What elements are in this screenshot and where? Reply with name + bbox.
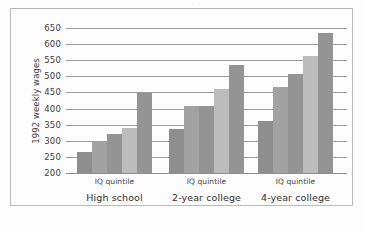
x-axis-label: IQ quintile <box>245 177 346 186</box>
y-tick-label: 650 <box>44 23 61 33</box>
x-axis-label: IQ quintile <box>64 177 165 186</box>
y-gridline <box>66 44 347 45</box>
bar <box>107 134 122 173</box>
bar <box>184 106 199 173</box>
bar <box>303 56 318 173</box>
bar-chart-figure: · · · · · · · · · · · · 1992 weekly wage… <box>0 0 365 230</box>
y-tick-label: 550 <box>44 55 61 65</box>
y-axis-title: 1992 weekly wages <box>30 28 42 173</box>
group-label: 2-year college <box>156 192 257 203</box>
bar <box>258 121 273 173</box>
group-caption: IQ quintile2-year college <box>156 177 257 203</box>
bar <box>273 87 288 173</box>
group-caption: IQ quintile4-year college <box>245 177 346 203</box>
x-axis-label: IQ quintile <box>156 177 257 186</box>
bar <box>122 128 137 173</box>
y-axis-title-label: 1992 weekly wages <box>31 58 41 144</box>
bar <box>199 106 214 173</box>
bar <box>214 89 229 173</box>
y-gridline <box>66 28 347 29</box>
y-tick-label: 350 <box>44 120 61 130</box>
group-label: 4-year college <box>245 192 346 203</box>
top-edge-bleed-text: · · · · · · · · · · · · <box>0 0 365 6</box>
y-tick-label: 200 <box>44 168 61 178</box>
bar <box>77 152 92 173</box>
bar <box>318 33 333 173</box>
chart-frame: 1992 weekly wages 6506005505004504003503… <box>10 8 353 206</box>
bar <box>169 129 184 173</box>
bar <box>92 142 107 173</box>
bar <box>229 65 244 173</box>
y-gridline <box>66 173 347 174</box>
bar <box>137 93 152 173</box>
y-tick-label: 450 <box>44 87 61 97</box>
y-tick-label: 600 <box>44 39 61 49</box>
group-label: High school <box>64 192 165 203</box>
bar <box>288 74 303 173</box>
y-tick-label: 400 <box>44 104 61 114</box>
group-caption: IQ quintileHigh school <box>64 177 165 203</box>
y-tick-label: 500 <box>44 71 61 81</box>
y-tick-label: 300 <box>44 136 61 146</box>
y-tick-label: 250 <box>44 152 61 162</box>
plot-area: 650600550500450400350300250200 <box>66 28 347 173</box>
